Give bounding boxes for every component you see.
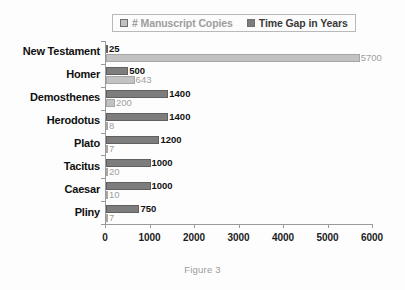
category-label-plato: Plato [74, 137, 100, 149]
x-axis-tick [283, 224, 284, 228]
category-label-herodotus: Herodotus [47, 114, 100, 126]
category-label-caesar: Caesar [65, 183, 101, 195]
bar-group: Herodotus14008 [105, 110, 372, 133]
plot-area: 0100020003000400050006000 New Testament2… [105, 41, 372, 224]
bar-copies: 8 [106, 122, 108, 130]
category-label-tacitus: Tacitus [64, 160, 100, 172]
bar-value-label: 7 [109, 213, 114, 223]
legend-swatch-icon-manuscript-copies [120, 19, 128, 27]
x-axis-tick-label: 2000 [183, 232, 205, 243]
category-label-demosthenes: Demosthenes [30, 91, 100, 103]
y-axis-tick [101, 224, 105, 225]
bar-gap: 1400 [106, 113, 168, 121]
legend-label-manuscript-copies: # Manuscript Copies [132, 17, 233, 29]
bar-group: Demosthenes1400200 [105, 87, 372, 110]
legend-swatch-icon-time-gap [247, 19, 255, 27]
bar-value-label: 8 [109, 121, 114, 131]
bar-group: Tacitus100020 [105, 155, 372, 178]
bar-copies: 7 [106, 145, 108, 153]
bar-value-label: 200 [116, 99, 132, 109]
chart-legend: # Manuscript Copies Time Gap in Years [112, 14, 356, 32]
legend-label-time-gap: Time Gap in Years [259, 17, 348, 29]
legend-entry-manuscript-copies: # Manuscript Copies [120, 17, 233, 29]
bar-value-label: 1200 [160, 135, 181, 145]
bar-group: Pliny7507 [105, 201, 372, 224]
x-axis-tick-label: 0 [102, 232, 108, 243]
category-label-pliny: Pliny [75, 206, 100, 218]
figure-container: # Manuscript Copies Time Gap in Years 01… [0, 0, 405, 290]
bar-value-label: 1400 [169, 112, 190, 122]
bar-gap: 1200 [106, 136, 159, 144]
bar-value-label: 25 [109, 44, 120, 54]
bar-group: New Testament255700 [105, 41, 372, 64]
x-axis-tick [194, 224, 195, 228]
bar-value-label: 5700 [361, 53, 382, 63]
x-axis-tick [239, 224, 240, 228]
category-label-homer: Homer [66, 68, 100, 80]
bar-group: Plato12007 [105, 133, 372, 156]
bar-value-label: 750 [140, 204, 156, 214]
bar-copies: 5700 [106, 54, 360, 62]
category-label-new-testament: New Testament [23, 45, 100, 57]
figure-caption: Figure 3 [0, 264, 405, 275]
x-axis-tick-label: 5000 [316, 232, 338, 243]
x-axis-tick [372, 224, 373, 228]
bar-group: Caesar100010 [105, 178, 372, 201]
bar-value-label: 1400 [169, 90, 190, 100]
x-axis-tick [150, 224, 151, 228]
bar-value-label: 1000 [152, 181, 173, 191]
bar-value-label: 1000 [152, 158, 173, 168]
x-axis-tick-label: 3000 [227, 232, 249, 243]
x-axis-tick-label: 4000 [272, 232, 294, 243]
bar-value-label: 643 [136, 76, 152, 86]
bar-gap: 500 [106, 67, 128, 75]
bar-value-label: 7 [109, 144, 114, 154]
bar-copies: 20 [106, 168, 108, 176]
x-axis-tick-label: 1000 [138, 232, 160, 243]
bar-gap: 25 [106, 45, 108, 53]
bar-copies: 7 [106, 214, 108, 222]
x-axis-tick-label: 6000 [361, 232, 383, 243]
bar-copies: 10 [106, 191, 108, 199]
bar-group: Homer500643 [105, 64, 372, 87]
bar-value-label: 20 [109, 167, 120, 177]
x-axis-tick [105, 224, 106, 228]
bar-copies: 643 [106, 76, 135, 84]
bar-copies: 200 [106, 99, 115, 107]
bar-value-label: 10 [109, 190, 120, 200]
legend-entry-time-gap: Time Gap in Years [247, 17, 348, 29]
x-axis-tick [328, 224, 329, 228]
